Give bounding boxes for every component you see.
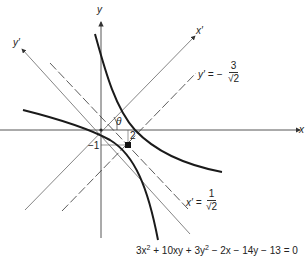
y-prime-asymptote-lhs: y′ = −	[198, 70, 222, 80]
origin-point	[99, 128, 102, 131]
x-tick-label: −1	[88, 141, 99, 151]
hyperbola-branch-lower	[23, 110, 158, 240]
fraction-denominator: √2	[206, 201, 217, 212]
y-prime-axis	[22, 49, 190, 234]
dashed-line-x-prime	[50, 63, 188, 209]
y-tick-label: 2	[130, 131, 136, 141]
x-prime-asymptote-lhs: x′ =	[186, 198, 202, 208]
x-prime-axis-label: x′	[196, 26, 203, 36]
equation-term: 3x	[136, 245, 147, 256]
equation-term: − 2x − 14y − 13 = 0	[209, 245, 298, 256]
fraction-numerator: 3	[229, 61, 239, 73]
y-axis-label: y	[97, 5, 102, 15]
x-axis-label: x	[299, 125, 304, 135]
y-prime-asymptote-fraction: 3 √2	[228, 61, 239, 84]
conic-diagram	[0, 0, 308, 262]
y-prime-axis-label: y′	[13, 38, 20, 48]
fraction-denominator: √2	[228, 73, 239, 84]
theta-label: θ	[116, 117, 121, 127]
x-prime-axis	[25, 36, 195, 210]
fraction-numerator: 1	[207, 189, 217, 201]
x-prime-asymptote-fraction: 1 √2	[206, 189, 217, 212]
equation-term: + 10xy + 3y	[150, 245, 204, 256]
hyperbola-branch-upper	[95, 34, 222, 172]
center-point	[125, 142, 131, 148]
conic-equation: 3x2 + 10xy + 3y2 − 2x − 14y − 13 = 0	[136, 244, 298, 256]
